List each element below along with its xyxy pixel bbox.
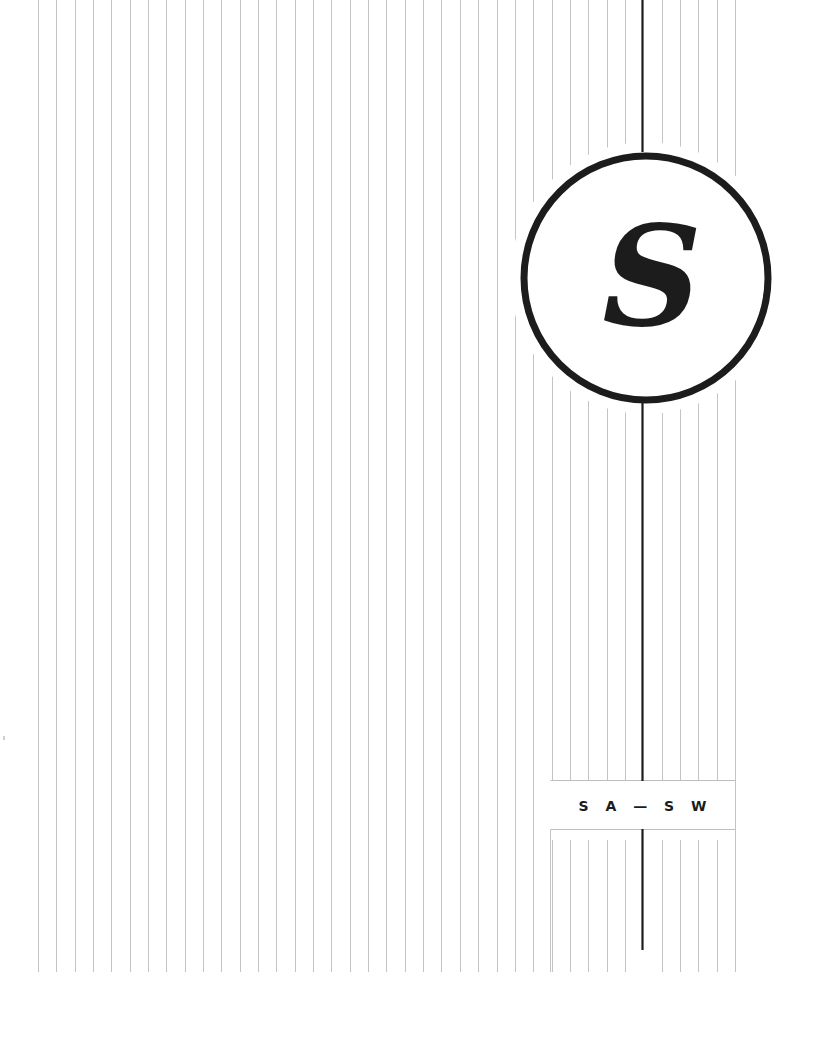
scan-speck	[3, 736, 5, 740]
section-letter: S	[602, 195, 702, 358]
index-range-label: S A — S W	[550, 794, 735, 818]
section-divider-page: S S A — S W	[0, 0, 815, 1056]
section-emblem: S	[524, 156, 768, 400]
ruled-lines-artwork: S	[0, 0, 815, 1056]
